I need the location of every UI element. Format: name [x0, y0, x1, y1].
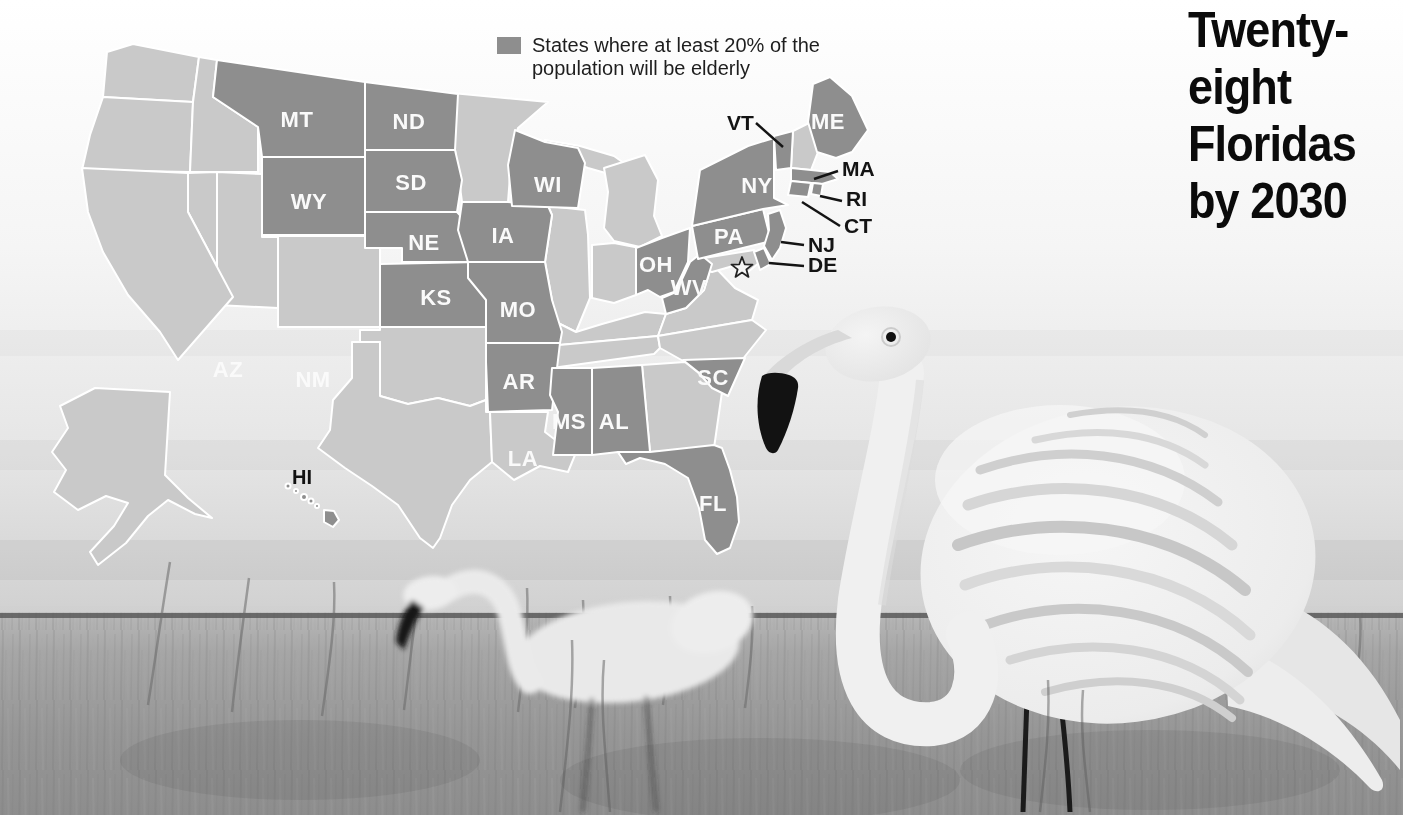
- callout-label-ri: RI: [846, 187, 867, 210]
- map-legend: States where at least 20% of the populat…: [497, 34, 848, 80]
- state-ri: [811, 183, 823, 196]
- state-label-ny: NY: [741, 173, 773, 198]
- state-label-ne: NE: [408, 230, 440, 255]
- callout-label-vt: VT: [727, 111, 754, 134]
- state-label-hi: HI: [292, 466, 312, 488]
- state-co: [278, 236, 380, 327]
- state-label-fl: FL: [699, 491, 727, 516]
- legend-swatch-icon: [497, 37, 521, 54]
- state-label-ar: AR: [503, 369, 536, 394]
- callout-label-ma: MA: [842, 157, 875, 180]
- state-or: [82, 97, 193, 172]
- state-label-al: AL: [599, 409, 629, 434]
- state-label-pa: PA: [714, 224, 744, 249]
- state-in: [592, 243, 640, 303]
- state-label-az: AZ: [213, 357, 243, 382]
- state-label-nd: ND: [393, 109, 426, 134]
- state-label-nm: NM: [295, 367, 330, 392]
- state-label-sc: SC: [697, 365, 729, 390]
- state-mi: [604, 155, 662, 247]
- headline: Twenty- eight Floridas by 2030: [1188, 2, 1356, 230]
- callout-label-ct: CT: [844, 214, 872, 237]
- headline-line-1: Twenty-: [1188, 2, 1356, 59]
- state-vt: [774, 131, 793, 170]
- state-label-wy: WY: [291, 189, 327, 214]
- headline-line-2: eight: [1188, 59, 1356, 116]
- state-label-ms: MS: [552, 409, 586, 434]
- state-label-me: ME: [811, 109, 845, 134]
- state-label-sd: SD: [395, 170, 427, 195]
- state-ct: [788, 181, 811, 197]
- state-label-mo: MO: [500, 297, 536, 322]
- state-label-ia: IA: [492, 223, 515, 248]
- large-flamingo-eye: [886, 332, 896, 342]
- callout-label-de: DE: [808, 253, 837, 276]
- state-label-wi: WI: [534, 172, 562, 197]
- state-label-mt: MT: [281, 107, 314, 132]
- state-label-la: LA: [508, 446, 538, 471]
- legend-label: States where at least 20% of the populat…: [532, 34, 848, 80]
- state-label-oh: OH: [639, 252, 673, 277]
- photo-bottom-margin: [0, 815, 1403, 832]
- headline-line-3: Floridas: [1188, 116, 1356, 173]
- state-label-ks: KS: [420, 285, 452, 310]
- grass-shadow: [560, 738, 960, 822]
- grass-shadow: [960, 730, 1340, 810]
- infographic: MT ND SD WY NE KS IA MO AR MS AL WI OH W…: [0, 0, 1403, 832]
- headline-line-4: by 2030: [1188, 173, 1356, 230]
- state-label-wv: WV: [671, 275, 707, 300]
- grass-shadow: [120, 720, 480, 800]
